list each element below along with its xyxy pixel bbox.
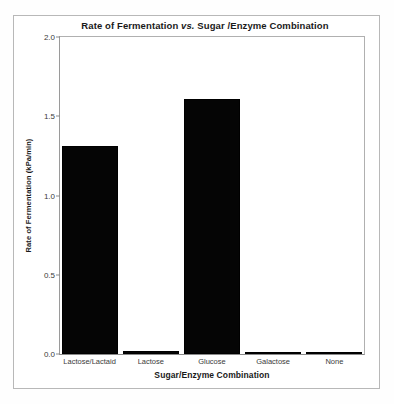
- bar-slot-2: [182, 37, 243, 354]
- x-tick-label-1: Lactose: [120, 357, 181, 366]
- chart-title-part-after: Sugar /Enzyme Combination: [195, 20, 329, 31]
- bar-slot-3: [242, 37, 303, 354]
- y-axis-title-label: Rate of Fermentation (kPa/min): [25, 139, 34, 253]
- chart-title-part-before: Rate of Fermentation: [81, 20, 181, 31]
- chart-title: Rate of Fermentation vs. Sugar /Enzyme C…: [40, 20, 370, 31]
- x-tick-label-3: Galactose: [243, 357, 304, 366]
- x-tick-label-4: None: [304, 357, 365, 366]
- chart-title-part-italic: vs.: [181, 20, 195, 31]
- bar-lactose-lactaid: [62, 146, 118, 354]
- bar-lactose: [123, 351, 179, 354]
- bar-none: [306, 352, 362, 354]
- plot-area: 0.0 0.5 1.0 1.5 2.0: [59, 36, 365, 355]
- x-axis-tick-labels: Lactose/Lactaid Lactose Glucose Galactos…: [59, 357, 365, 366]
- y-axis-title: Rate of Fermentation (kPa/min): [23, 36, 35, 355]
- x-tick-label-2: Glucose: [181, 357, 242, 366]
- bar-slot-4: [303, 37, 364, 354]
- bar-slot-0: [60, 37, 121, 354]
- x-tick-label-0: Lactose/Lactaid: [59, 357, 120, 366]
- bar-galactose: [245, 352, 301, 354]
- chart-figure: Rate of Fermentation vs. Sugar /Enzyme C…: [0, 0, 394, 404]
- bar-series: [60, 37, 364, 354]
- bar-glucose: [184, 99, 240, 354]
- x-axis-title: Sugar/Enzyme Combination: [59, 370, 365, 380]
- bar-slot-1: [121, 37, 182, 354]
